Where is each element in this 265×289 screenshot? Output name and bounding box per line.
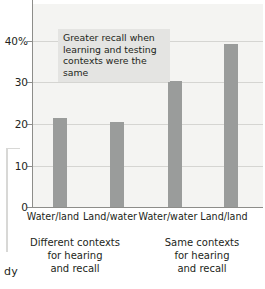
bar-water-land xyxy=(53,118,67,207)
group-label-different-contexts: Different contexts for hearing and recal… xyxy=(15,236,135,276)
group-label-different-line-1: Different contexts xyxy=(15,236,135,249)
page-edge-artifact-top xyxy=(6,148,20,149)
bar-chart-figure: dy 40% 30 20 10 0 Greater recall when le… xyxy=(0,0,265,289)
group-label-same-line-2: for hearing xyxy=(142,249,262,262)
plot-top-margin xyxy=(32,0,263,4)
y-tick-label-30: 30 xyxy=(0,77,28,88)
y-tick-label-10: 10 xyxy=(0,161,28,172)
y-tick-label-40: 40% xyxy=(0,36,28,47)
group-label-different-line-3: and recall xyxy=(15,262,135,275)
y-tick-label-20: 20 xyxy=(0,119,28,130)
group-label-same-contexts: Same contexts for hearing and recall xyxy=(142,236,262,276)
category-label-land-land: Land/land xyxy=(189,211,259,222)
annotation-line-1: Greater recall when xyxy=(63,32,155,43)
group-label-same-line-3: and recall xyxy=(142,262,262,275)
x-axis-line xyxy=(32,207,263,208)
annotation-line-2: learning and testing xyxy=(63,44,157,55)
bar-water-water xyxy=(168,81,182,207)
annotation-line-3: contexts were the same xyxy=(63,55,147,78)
bar-land-land xyxy=(224,44,238,207)
group-label-same-line-1: Same contexts xyxy=(142,236,262,249)
group-label-different-line-2: for hearing xyxy=(15,249,135,262)
annotation-callout: Greater recall when learning and testing… xyxy=(58,29,170,82)
y-axis-line xyxy=(32,0,33,208)
bar-land-water xyxy=(110,122,124,207)
